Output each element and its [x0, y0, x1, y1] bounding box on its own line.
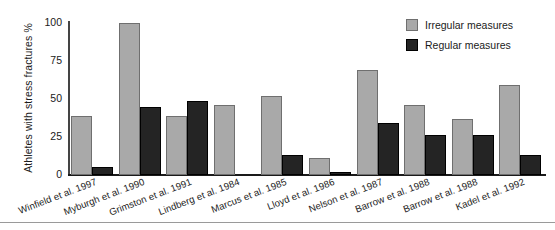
bar-group — [260, 21, 308, 175]
bar-irregular — [119, 23, 140, 175]
bar-group — [213, 21, 261, 175]
bar-regular — [282, 155, 303, 175]
legend-swatch-regular — [406, 39, 418, 51]
bar-chart-figure: Athletes with stress fractures % 0255075… — [0, 0, 555, 230]
bar-group — [356, 21, 404, 175]
bar-group — [70, 21, 118, 175]
y-axis-tick-label: 100 — [32, 16, 62, 28]
legend-label: Regular measures — [425, 39, 511, 51]
bar-irregular — [309, 158, 330, 175]
bar-group — [308, 21, 356, 175]
bar-irregular — [214, 105, 235, 175]
bar-irregular — [261, 96, 282, 175]
bar-regular — [330, 172, 351, 175]
bar-irregular — [357, 70, 378, 175]
y-axis-tick-label: 0 — [32, 168, 62, 180]
y-axis-tick-label: 75 — [32, 54, 62, 66]
bar-regular — [187, 101, 208, 175]
bar-group — [165, 21, 213, 175]
bar-regular — [378, 123, 399, 175]
bar-irregular — [499, 85, 520, 175]
y-axis-tick-label: 50 — [32, 92, 62, 104]
bar-regular — [520, 155, 541, 175]
bar-irregular — [452, 119, 473, 175]
legend-label: Irregular measures — [425, 19, 513, 31]
y-axis-tick-label: 25 — [32, 130, 62, 142]
bar-group — [118, 21, 166, 175]
bar-irregular — [404, 105, 425, 175]
bar-regular — [140, 107, 161, 175]
bar-regular — [92, 167, 113, 175]
legend-item: Irregular measures — [406, 17, 513, 33]
bottom-divider — [0, 222, 555, 223]
chart-legend: Irregular measuresRegular measures — [406, 17, 513, 57]
bar-regular — [425, 135, 446, 175]
legend-item: Regular measures — [406, 37, 513, 53]
bar-irregular — [166, 116, 187, 175]
bar-regular — [473, 135, 494, 175]
legend-swatch-irregular — [406, 19, 418, 31]
bar-irregular — [71, 116, 92, 175]
